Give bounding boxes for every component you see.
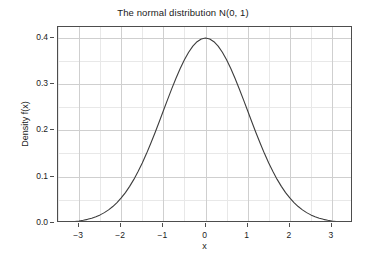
y-tick-label: 0.1 — [8, 171, 48, 181]
x-axis-label: x — [57, 241, 352, 251]
x-tick-label: 3 — [311, 230, 351, 240]
x-tick-label: 1 — [227, 230, 267, 240]
x-tick-mark — [205, 223, 206, 227]
x-tick-mark — [331, 223, 332, 227]
x-tick-label: −1 — [142, 230, 182, 240]
y-tick-label: 0.3 — [8, 78, 48, 88]
x-tick-label: 0 — [185, 230, 225, 240]
chart-title: The normal distribution N(0, 1) — [0, 7, 366, 18]
y-tick-mark — [50, 129, 54, 130]
chart-figure: The normal distribution N(0, 1) Density … — [0, 0, 366, 267]
x-tick-label: 2 — [269, 230, 309, 240]
x-tick-mark — [120, 223, 121, 227]
y-tick-mark — [50, 83, 54, 84]
x-tick-mark — [247, 223, 248, 227]
gridlines-layer — [58, 27, 352, 222]
density-curve-svg — [58, 27, 352, 222]
x-tick-label: −2 — [100, 230, 140, 240]
plot-panel — [57, 26, 352, 222]
y-tick-mark — [50, 222, 54, 223]
y-tick-mark — [50, 176, 54, 177]
y-tick-mark — [50, 37, 54, 38]
y-tick-label: 0.0 — [8, 217, 48, 227]
x-tick-mark — [162, 223, 163, 227]
x-tick-label: −3 — [58, 230, 98, 240]
x-tick-mark — [78, 223, 79, 227]
x-tick-mark — [289, 223, 290, 227]
y-tick-label: 0.4 — [8, 32, 48, 42]
y-axis: 0.00.10.20.30.4 — [0, 26, 57, 222]
y-tick-label: 0.2 — [8, 124, 48, 134]
